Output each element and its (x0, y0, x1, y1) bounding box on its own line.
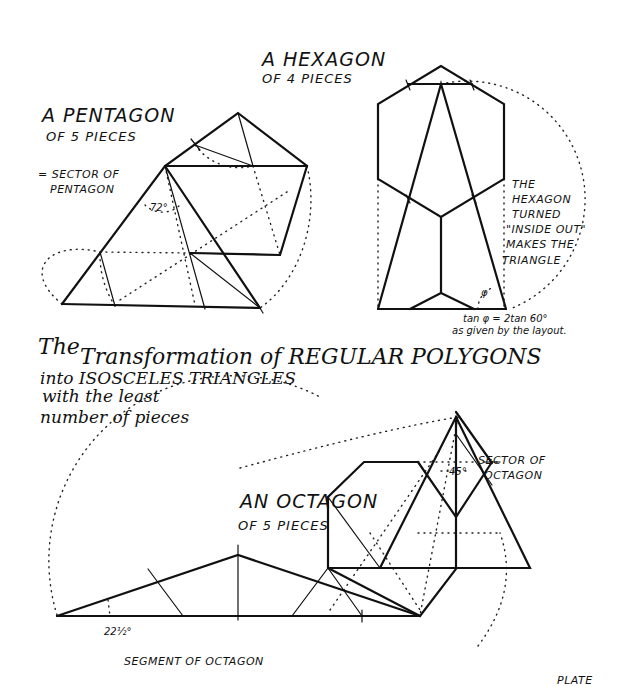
octagon-subtitle: OF 5 PIECES (238, 518, 329, 533)
pentagon-sector-note-1: = SECTOR OF (38, 168, 120, 181)
octagon-title: AN OCTAGON (238, 490, 378, 512)
octagon-sector-label-2: OCTAGON (484, 469, 542, 482)
triangle-side (165, 166, 260, 308)
hexagon-formula-note: as given by the layout. (452, 325, 567, 336)
hexagon-note-line: THE (512, 178, 535, 191)
construction-line (330, 450, 440, 610)
hexagon-subtitle: OF 4 PIECES (262, 71, 353, 86)
octagon-segment-angle: 22½° (104, 626, 131, 637)
construction-arc (478, 533, 506, 646)
pentagon-angle-label: 72° (150, 202, 168, 213)
hexagon-title: A HEXAGON (260, 48, 386, 70)
construction-line (370, 533, 420, 610)
main-title-line3: with the least (42, 386, 160, 406)
octagon-lower-edge (328, 568, 420, 616)
cut-line (165, 166, 205, 309)
main-title: The Transformation of REGULAR POLYGONS i… (38, 334, 542, 427)
hexagon-outline (378, 66, 504, 217)
hexagon-figure: A HEXAGON OF 4 PIECES THE HEXAGON TURNED… (260, 48, 586, 336)
construction-line (420, 417, 458, 615)
construction-line (100, 252, 190, 253)
pentagon-figure: A PENTAGON OF 5 PIECES = SECTOR OF PENTA… (38, 104, 311, 313)
construction-line (120, 190, 290, 300)
cut-line (195, 145, 253, 166)
cut-line (100, 252, 115, 306)
cut-line (238, 113, 253, 166)
plate-label: PLATE (557, 674, 593, 686)
hexagon-note-line: HEXAGON (512, 193, 571, 206)
cut-line (190, 253, 260, 308)
triangle-base (62, 304, 260, 308)
angle-arc (108, 600, 110, 616)
dissection-plate: A PENTAGON OF 5 PIECES = SECTOR OF PENTA… (0, 0, 627, 686)
construction-line (253, 166, 280, 255)
hexagon-cut-foot (410, 293, 474, 309)
octagon-segment-label: SEGMENT OF OCTAGON (124, 655, 264, 668)
hexagon-note-line: TURNED (512, 208, 561, 221)
cut-line (328, 568, 362, 616)
construction-arc (42, 249, 100, 304)
pentagon-sector-note-2: PENTAGON (50, 183, 114, 196)
octagon-right-edges (420, 417, 456, 616)
pentagon-subtitle: OF 5 PIECES (46, 129, 137, 144)
main-title-line4: number of pieces (40, 407, 189, 427)
main-title-line1b: Transformation of REGULAR POLYGONS (80, 344, 542, 369)
hexagon-note-line: TRIANGLE (502, 254, 561, 267)
octagon-sector-angle: 45° (449, 466, 467, 477)
pentagon-title: A PENTAGON (40, 104, 175, 126)
hexagon-note-line: MAKES THE (506, 238, 574, 251)
hexagon-note: THE HEXAGON TURNED "INSIDE OUT" MAKES TH… (502, 178, 586, 267)
main-title-line1a: The (38, 334, 80, 359)
main-title-line2: into ISOSCELES TRIANGLES (40, 368, 296, 388)
hexagon-note-line: "INSIDE OUT" (506, 223, 586, 236)
hexagon-formula: tan φ = 2tan 60° (463, 313, 548, 324)
construction-arc (240, 417, 458, 468)
plate-drawing: A PENTAGON OF 5 PIECES = SECTOR OF PENTA… (0, 0, 627, 686)
